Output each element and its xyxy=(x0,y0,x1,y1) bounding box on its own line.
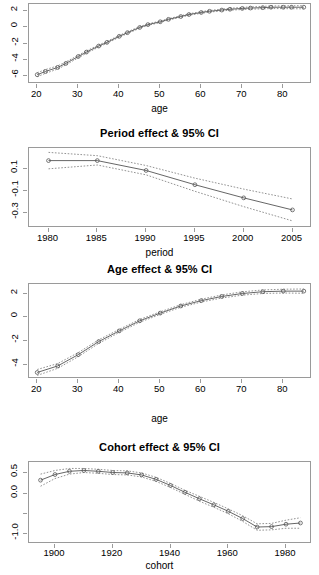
x-axis-tick-label: 30 xyxy=(72,383,83,394)
effect-line xyxy=(37,7,304,74)
x-axis-tick-label: 70 xyxy=(236,383,247,394)
y-axis-tick-label: 0.0 xyxy=(4,486,24,500)
y-axis-tick-text: 0 xyxy=(8,22,19,27)
y-axis-tick-mark xyxy=(23,513,27,514)
effect-line xyxy=(49,161,293,210)
x-axis-tick-label: 1995 xyxy=(183,232,204,243)
x-axis-tick-label: 80 xyxy=(277,383,288,394)
y-axis-tick-label: 0.5 xyxy=(4,465,24,479)
x-axis-tick-label: 1960 xyxy=(217,547,238,558)
x-axis-tick-label: 40 xyxy=(113,383,124,394)
x-axis-tick-label: 80 xyxy=(277,88,288,99)
y-axis-tick-label: -4 xyxy=(4,52,24,66)
x-axis-tick-label: 2005 xyxy=(281,232,302,243)
ci-band-line xyxy=(41,468,301,523)
x-axis-tick-label: 2000 xyxy=(232,232,253,243)
y-axis-tick-label: 0.1 xyxy=(4,161,24,175)
x-axis-label: age xyxy=(0,413,319,424)
series-canvas xyxy=(29,462,312,544)
y-axis-tick-text: 0.1 xyxy=(9,160,20,173)
ci-band-line xyxy=(37,289,304,370)
x-axis-tick-label: 1980 xyxy=(37,232,58,243)
plot-area xyxy=(28,461,311,543)
y-axis-tick-label: -1.0 xyxy=(4,526,24,540)
x-axis-tick-label: 40 xyxy=(113,88,124,99)
ci-band-line xyxy=(37,293,304,375)
y-axis-tick-text: 0 xyxy=(8,312,19,317)
x-axis-tick-label: 50 xyxy=(154,88,165,99)
y-axis-tick-text: -0.1 xyxy=(9,180,20,196)
x-axis-tick-label: 60 xyxy=(195,88,206,99)
x-axis-tick-label: 50 xyxy=(154,383,165,394)
y-axis-tick-label: -2 xyxy=(4,333,24,347)
series-canvas xyxy=(29,284,312,379)
y-axis-tick-text: 2 xyxy=(8,288,19,293)
x-axis-tick-label: 1940 xyxy=(159,547,180,558)
x-axis-tick-label: 1920 xyxy=(101,547,122,558)
x-axis-label: period xyxy=(0,247,319,258)
y-axis-tick-text: 0.0 xyxy=(9,484,20,497)
data-point-marker xyxy=(35,73,39,77)
x-axis-tick-label: 70 xyxy=(236,88,247,99)
x-axis-tick-label: 20 xyxy=(31,88,42,99)
series-canvas xyxy=(29,4,312,84)
x-axis-tick-label: 1980 xyxy=(274,547,295,558)
plot-area xyxy=(28,3,311,83)
y-axis-tick-text: -2 xyxy=(8,37,19,45)
y-axis-tick-text: -6 xyxy=(8,69,19,77)
plot-area xyxy=(28,283,311,378)
y-axis-tick-text: -1.0 xyxy=(9,523,20,539)
x-axis-tick-label: 60 xyxy=(195,383,206,394)
ci-band-line xyxy=(49,165,293,221)
y-axis-tick-label: 2 xyxy=(4,286,24,300)
ci-band-line xyxy=(41,473,301,531)
y-axis-tick-text: -0.3 xyxy=(9,202,20,218)
x-axis-tick-label: 1985 xyxy=(86,232,107,243)
y-axis-tick-text: 0.5 xyxy=(9,464,20,477)
x-axis-label: age xyxy=(0,103,319,114)
y-axis-tick-label: -4 xyxy=(4,357,24,371)
effect-line xyxy=(41,470,301,527)
ci-band-line xyxy=(49,152,293,199)
y-axis-tick-label: -0.3 xyxy=(4,205,24,219)
y-axis-tick-label: 0 xyxy=(4,19,24,33)
series-canvas xyxy=(29,148,312,228)
plot-area xyxy=(28,147,311,227)
x-axis-label: cohort xyxy=(0,560,319,571)
y-axis-tick-text: -4 xyxy=(8,358,19,366)
ci-band-line xyxy=(37,6,304,73)
y-axis-tick-label: 0 xyxy=(4,309,24,323)
y-axis-tick-text: -2 xyxy=(8,334,19,342)
panel-title: Cohort effect & 95% CI xyxy=(0,441,319,453)
y-axis-tick-text: -4 xyxy=(8,53,19,61)
y-axis-tick-label: -6 xyxy=(4,68,24,82)
x-axis-tick-label: 1900 xyxy=(43,547,64,558)
y-axis-tick-text: 2 xyxy=(8,6,19,11)
y-axis-tick-label: 2 xyxy=(4,3,24,17)
effect-line xyxy=(37,291,304,372)
x-axis-tick-label: 20 xyxy=(31,383,42,394)
y-axis-tick-label: -0.1 xyxy=(4,183,24,197)
panel-title: Age effect & 95% CI xyxy=(0,263,319,275)
panel-title: Period effect & 95% CI xyxy=(0,127,319,139)
y-axis-tick-label: -2 xyxy=(4,36,24,50)
x-axis-tick-label: 1990 xyxy=(135,232,156,243)
x-axis-tick-label: 30 xyxy=(72,88,83,99)
